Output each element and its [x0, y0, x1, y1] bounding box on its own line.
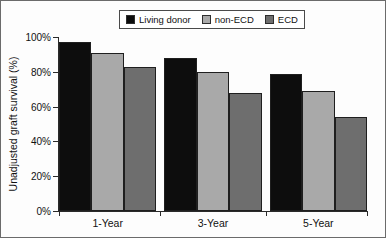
y-axis-tick-label: 80%: [1, 66, 51, 77]
chart-legend: Living donor non-ECD ECD: [119, 10, 305, 29]
bar-ecd-1-year: [124, 67, 156, 211]
legend-swatch-non-ecd: [202, 15, 211, 24]
y-axis-tick-label: 60%: [1, 101, 51, 112]
y-axis-title: Unadjusted graft survival (%): [5, 37, 21, 211]
bar-living-donor-5-year: [270, 74, 302, 211]
legend-item-non-ecd: non-ECD: [202, 15, 254, 25]
x-axis-tick: [59, 211, 60, 216]
legend-item-ecd: ECD: [265, 15, 298, 25]
bar-ecd-3-year: [229, 93, 261, 211]
x-axis-line: [58, 211, 368, 212]
x-axis-tick: [367, 211, 368, 216]
bar-non-ecd-3-year: [197, 72, 229, 211]
x-axis-category-label: 3-Year: [198, 217, 229, 229]
legend-label-ecd: ECD: [278, 15, 298, 25]
y-axis-tick-label: 0%: [1, 206, 51, 217]
plot-area: [59, 37, 367, 211]
bar-living-donor-3-year: [164, 58, 196, 211]
x-axis-tick: [160, 211, 161, 216]
x-axis-category-label: 1-Year: [92, 217, 123, 229]
bar-non-ecd-5-year: [302, 91, 334, 211]
bar-non-ecd-1-year: [91, 53, 123, 211]
y-axis-tick-label: 40%: [1, 136, 51, 147]
y-axis-tick-label: 100%: [1, 32, 51, 43]
legend-label-non-ecd: non-ECD: [215, 15, 254, 25]
x-axis-category-label: 5-Year: [303, 217, 334, 229]
legend-label-living-donor: Living donor: [139, 15, 191, 25]
legend-swatch-living-donor: [126, 15, 135, 24]
x-axis-tick: [266, 211, 267, 216]
bar-living-donor-1-year: [59, 42, 91, 211]
y-axis-tick-label: 20%: [1, 171, 51, 182]
legend-item-living-donor: Living donor: [126, 15, 191, 25]
chart-figure: Living donor non-ECD ECD Unadjusted graf…: [0, 0, 386, 238]
bar-ecd-5-year: [335, 117, 367, 211]
legend-swatch-ecd: [265, 15, 274, 24]
